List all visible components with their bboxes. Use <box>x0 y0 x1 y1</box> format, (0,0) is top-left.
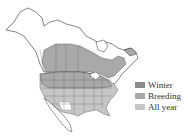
legend-item-all-year: All year <box>135 102 181 112</box>
breeding-swatch <box>135 93 145 99</box>
legend-item-breeding: Breeding <box>135 91 181 101</box>
legend-label: Breeding <box>148 91 181 101</box>
legend-item-winter: Winter <box>135 80 181 90</box>
legend-label: Winter <box>148 80 173 90</box>
legend-label: All year <box>148 102 177 112</box>
range-map <box>0 0 188 136</box>
winter-swatch <box>135 82 145 88</box>
all-year-swatch <box>135 104 145 110</box>
legend: Winter Breeding All year <box>135 80 181 113</box>
